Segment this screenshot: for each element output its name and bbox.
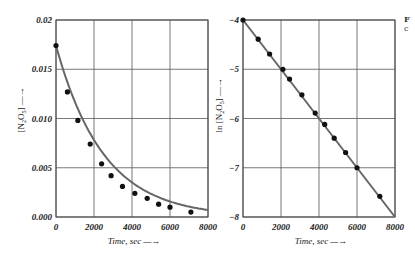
x-tick-label: 8000 (386, 222, 405, 232)
x-axis-label: Time, sec —→ (108, 236, 161, 246)
y-tick-label: 0.02 (36, 15, 52, 25)
data-point (156, 202, 161, 207)
x-tick-label: 6000 (161, 222, 180, 232)
x-tick-label: 4000 (122, 222, 142, 232)
data-point (343, 150, 348, 155)
caption-fragment: F c (404, 14, 410, 33)
y-tick-label: −5 (229, 64, 239, 74)
data-point (377, 194, 382, 199)
data-point (354, 165, 359, 170)
data-point (287, 77, 292, 82)
data-point (313, 110, 318, 115)
data-point (188, 209, 193, 214)
plots-canvas: 020004000600080000.0000.0050.0100.0150.0… (0, 0, 415, 263)
y-tick-label: −4 (229, 15, 239, 25)
data-point (88, 142, 93, 147)
data-point (120, 184, 125, 189)
data-point (299, 92, 304, 97)
data-point (167, 205, 172, 210)
plot-panel-2: 02000400060008000−8−7−6−5−4Time, sec —→l… (214, 15, 405, 246)
y-axis-label: ln [N2O5] —→ (214, 78, 225, 133)
data-point (132, 191, 137, 196)
y-tick-label: −8 (229, 212, 239, 222)
data-point (99, 161, 104, 166)
data-point (332, 136, 337, 141)
x-tick-label: 2000 (84, 222, 104, 232)
x-tick-label: 8000 (199, 222, 218, 232)
x-axis-label: Time, sec —→ (295, 236, 348, 246)
data-point (240, 17, 245, 22)
data-point (53, 43, 58, 48)
data-point (267, 51, 272, 56)
x-tick-label: 0 (54, 222, 59, 232)
x-tick-label: 2000 (271, 222, 291, 232)
y-tick-label: 0.015 (32, 64, 53, 74)
y-tick-label: −7 (229, 163, 239, 173)
y-tick-label: −6 (229, 114, 239, 124)
y-tick-label: 0.005 (32, 163, 53, 173)
x-tick-label: 6000 (348, 222, 367, 232)
x-tick-label: 4000 (309, 222, 329, 232)
data-point (322, 122, 327, 127)
data-point (109, 173, 114, 178)
data-point (256, 37, 261, 42)
data-point (280, 67, 285, 72)
plot-panel-1: 020004000600080000.0000.0050.0100.0150.0… (16, 15, 218, 246)
y-tick-label: 0.010 (32, 114, 53, 124)
y-axis-label: [N2O5] —→ (16, 87, 27, 132)
x-tick-label: 0 (241, 222, 246, 232)
figure: 020004000600080000.0000.0050.0100.0150.0… (0, 0, 415, 263)
data-point (145, 196, 150, 201)
data-point (65, 89, 70, 94)
data-point (75, 118, 80, 123)
y-tick-label: 0.000 (32, 212, 53, 222)
